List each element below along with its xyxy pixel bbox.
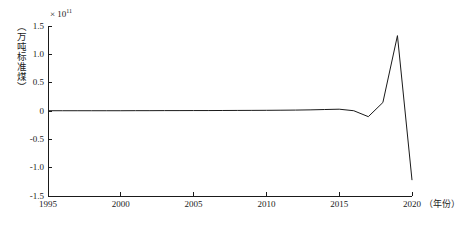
chart-figure: × 1011 （万吨标准煤） 1.51.00.50-0.5-1.0-1.5 （年… xyxy=(0,0,467,228)
x-tick-label: 2020 xyxy=(403,200,421,209)
x-tick-label: 2005 xyxy=(185,200,203,209)
data-series-line xyxy=(48,36,412,181)
x-tick-label: 1995 xyxy=(39,200,57,209)
x-tick-label: 2010 xyxy=(257,200,275,209)
plot-area xyxy=(0,0,467,228)
x-tick-marks xyxy=(48,192,412,196)
x-tick-label: 2015 xyxy=(330,200,348,209)
x-tick-label: 2000 xyxy=(112,200,130,209)
